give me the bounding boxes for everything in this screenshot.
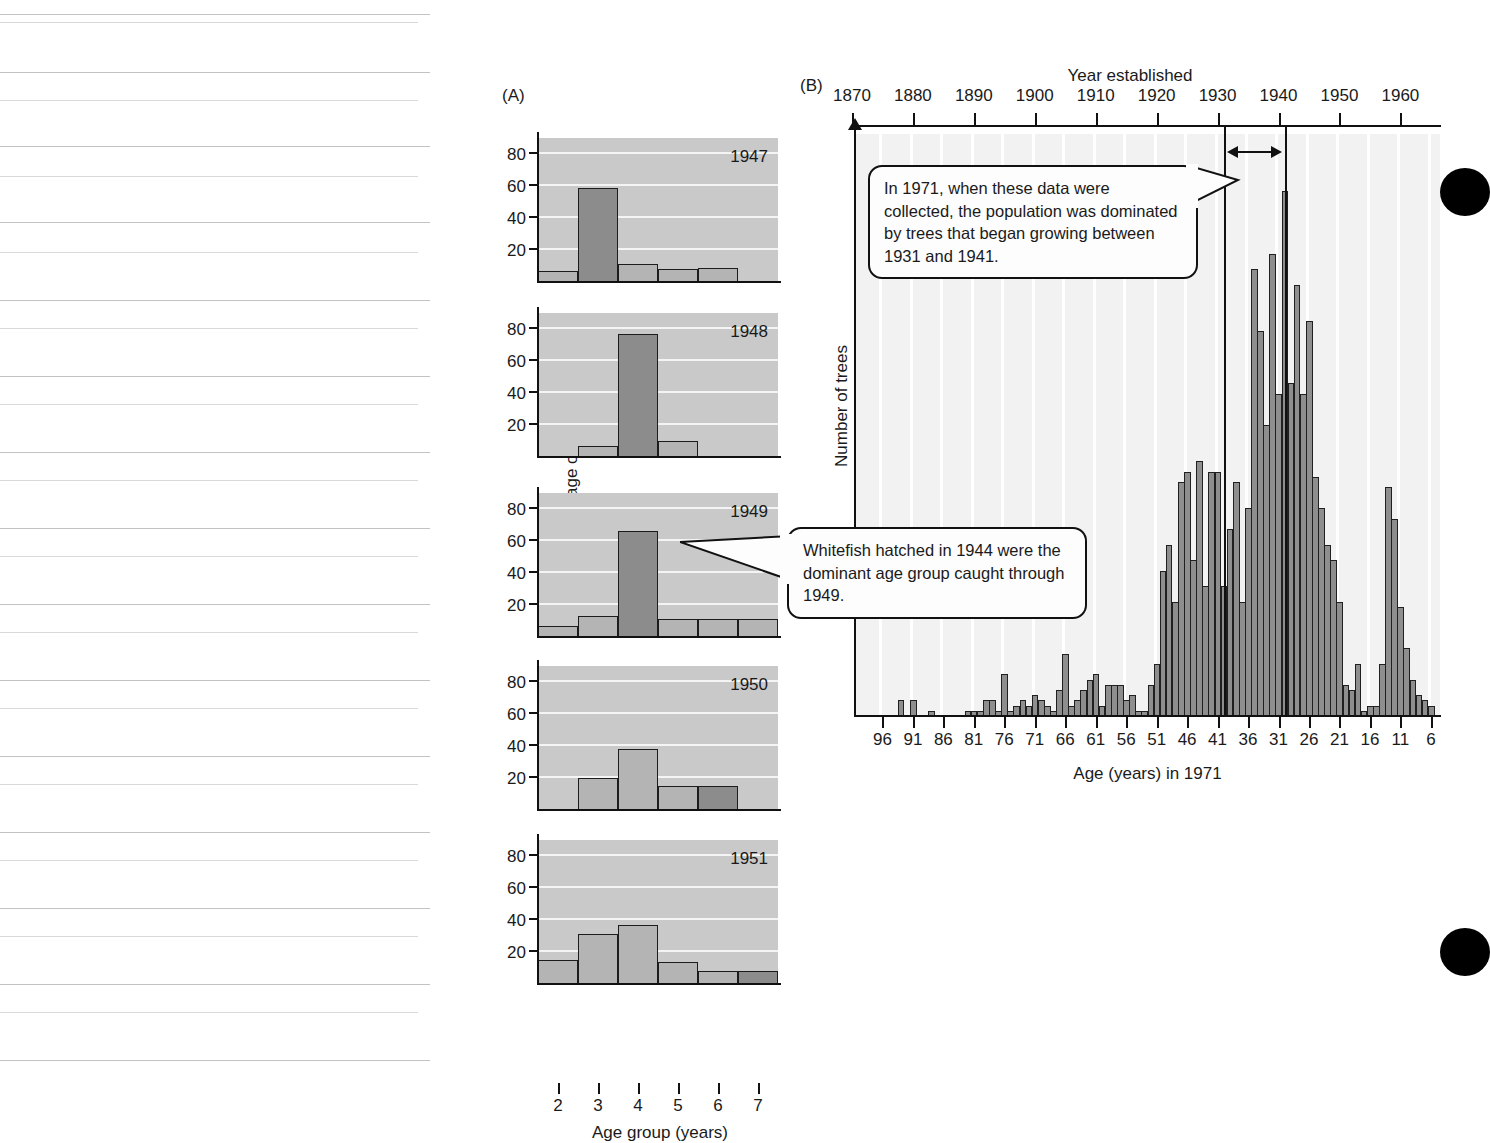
bar-age-4 xyxy=(618,749,658,810)
bar-age-7 xyxy=(738,619,778,637)
callout-b-pointer-icon xyxy=(1186,160,1306,220)
callout-b-text: In 1971, when these data were collected,… xyxy=(884,179,1178,265)
y-tick-label: 20 xyxy=(486,943,526,963)
y-tick-mark xyxy=(529,359,538,361)
gridline xyxy=(538,423,778,425)
ruled-line xyxy=(0,1060,430,1061)
histogram-bar-age-76 xyxy=(1001,674,1008,716)
x-tick-label: 6 xyxy=(705,1096,731,1116)
bar-age-3 xyxy=(578,616,618,637)
y-tick-mark xyxy=(529,327,538,329)
ruled-line xyxy=(0,146,430,147)
bar-age-6 xyxy=(698,786,738,810)
bar-age-4 xyxy=(618,925,658,984)
y-tick-mark xyxy=(529,712,538,714)
y-tick-mark xyxy=(529,152,538,154)
top-axis-tick-label: 1930 xyxy=(1192,86,1244,106)
ruled-line xyxy=(0,404,418,405)
bottom-axis-tick-mark xyxy=(1157,717,1159,728)
y-tick-mark xyxy=(529,248,538,250)
mini-chart-x-axis-line xyxy=(537,281,781,283)
top-axis-tick-label: 1920 xyxy=(1131,86,1183,106)
mini-chart-x-axis-line xyxy=(537,983,781,985)
bottom-axis-tick-label: 86 xyxy=(926,730,960,750)
top-axis-tick-mark xyxy=(1218,113,1220,126)
chart-year-label: 1947 xyxy=(730,147,768,167)
mini-bar-chart-1951: 204060801951 xyxy=(538,840,778,984)
x-tick-label: 2 xyxy=(545,1096,571,1116)
ruled-line xyxy=(0,252,418,253)
histogram-bar-age-91 xyxy=(910,700,917,716)
x-tick-mark xyxy=(638,1083,640,1094)
y-tick-mark xyxy=(529,423,538,425)
panel-a-x-axis-label: Age group (years) xyxy=(498,1123,822,1143)
bottom-axis-tick-label: 31 xyxy=(1262,730,1296,750)
panel-a-label: (A) xyxy=(502,86,525,106)
bottom-axis-tick-mark xyxy=(1126,717,1128,728)
gridline xyxy=(538,886,778,888)
x-tick-mark xyxy=(678,1083,680,1094)
callout-a-pointer-icon xyxy=(680,528,800,598)
y-tick-label: 40 xyxy=(486,209,526,229)
bottom-axis-tick-label: 41 xyxy=(1201,730,1235,750)
gridline xyxy=(538,918,778,920)
bottom-axis-tick-mark xyxy=(1248,717,1250,728)
bottom-axis-tick-mark xyxy=(913,717,915,728)
y-tick-mark xyxy=(529,950,538,952)
bottom-axis-tick-mark xyxy=(1004,717,1006,728)
top-axis-tick-mark xyxy=(913,113,915,126)
top-axis-tick-label: 1960 xyxy=(1374,86,1426,106)
y-tick-mark xyxy=(529,918,538,920)
y-tick-label: 60 xyxy=(486,532,526,552)
bottom-axis-tick-label: 6 xyxy=(1414,730,1448,750)
x-tick-label: 5 xyxy=(665,1096,691,1116)
top-axis-tick-mark xyxy=(1096,113,1098,126)
y-tick-label: 60 xyxy=(486,352,526,372)
gridline xyxy=(1367,134,1370,716)
ruled-line xyxy=(0,936,418,937)
bottom-axis-tick-label: 51 xyxy=(1140,730,1174,750)
top-axis-tick-mark xyxy=(974,113,976,126)
bar-age-5 xyxy=(658,962,698,984)
mini-bar-chart-1947: 204060801947 xyxy=(538,138,778,282)
y-tick-label: 40 xyxy=(486,737,526,757)
bar-age-3 xyxy=(578,188,618,282)
gridline xyxy=(538,744,778,746)
bottom-axis-tick-mark xyxy=(1096,717,1098,728)
bottom-axis-tick-mark xyxy=(1339,717,1341,728)
mini-chart-y-axis-line xyxy=(537,834,539,984)
ruled-line xyxy=(0,984,430,985)
ruled-line xyxy=(0,176,418,177)
top-axis-tick-mark xyxy=(1035,113,1037,126)
ruled-line xyxy=(0,480,418,481)
y-tick-label: 60 xyxy=(486,879,526,899)
ruled-line xyxy=(0,860,418,861)
ruled-line xyxy=(0,556,418,557)
ruled-line xyxy=(0,756,430,757)
ruled-line xyxy=(0,328,418,329)
histogram-bar-age-93 xyxy=(898,700,905,716)
ruled-line xyxy=(0,376,430,377)
bottom-axis-tick-label: 66 xyxy=(1048,730,1082,750)
panel-b-x-axis-line xyxy=(854,715,1441,717)
y-tick-label: 20 xyxy=(486,769,526,789)
callout-a-text: Whitefish hatched in 1944 were the domin… xyxy=(803,541,1064,604)
y-tick-label: 40 xyxy=(486,384,526,404)
y-tick-label: 40 xyxy=(486,564,526,584)
bottom-axis-tick-label: 81 xyxy=(957,730,991,750)
bar-age-5 xyxy=(658,441,698,457)
x-tick-mark xyxy=(598,1083,600,1094)
y-tick-mark xyxy=(529,680,538,682)
bottom-axis-tick-mark xyxy=(1309,717,1311,728)
bottom-axis-tick-mark xyxy=(1187,717,1189,728)
x-tick-mark xyxy=(758,1083,760,1094)
ruled-line xyxy=(0,100,418,101)
top-axis-tick-mark xyxy=(1339,113,1341,126)
callout-bubble-panel-a: Whitefish hatched in 1944 were the domin… xyxy=(787,527,1087,619)
y-tick-label: 60 xyxy=(486,705,526,725)
panel-a-x-axis: Age group (years) 234567 xyxy=(538,1083,782,1143)
bottom-axis-tick-mark xyxy=(882,717,884,728)
bar-age-2 xyxy=(538,960,578,984)
ruled-line xyxy=(0,784,418,785)
x-tick-mark xyxy=(718,1083,720,1094)
